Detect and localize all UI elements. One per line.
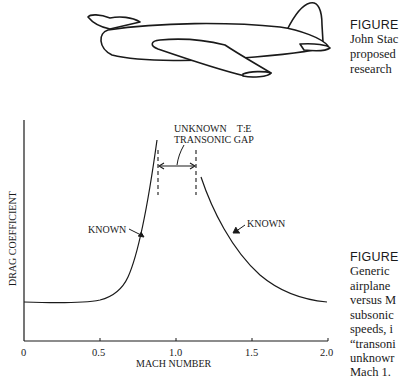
annotation-known-subsonic: KNOWN	[88, 224, 126, 235]
subsonic-curve	[24, 140, 157, 303]
annotation-unknown: UNKNOWN T:E	[174, 123, 251, 134]
annotation-known-supersonic: KNOWN	[247, 218, 285, 229]
figure-bottom-caption-line: airplane	[350, 279, 390, 294]
figure-bottom-caption-title: FIGURE	[350, 250, 398, 264]
x-tick-0.5: 0.5	[92, 347, 105, 358]
figure-bottom-caption-line: “transoni	[350, 337, 396, 352]
x-tick-1.5: 1.5	[245, 347, 258, 358]
figure-bottom-caption-line: Mach 1.	[350, 365, 391, 380]
x-tick-2.0: 2.0	[320, 347, 333, 358]
figure-bottom-caption-line: speeds, i	[350, 322, 393, 337]
figure-bottom-caption-line: subsonic	[350, 308, 394, 323]
figure-top-caption-line: proposed	[350, 47, 396, 62]
x-axis-label: MACH NUMBER	[136, 358, 211, 369]
supersonic-curve	[201, 177, 327, 302]
x-tick-0: 0	[21, 347, 26, 358]
figure-bottom-caption-line: versus M	[350, 293, 396, 308]
figure-top-caption-line: John Stac	[350, 32, 398, 47]
figure-top-caption-line: research	[350, 62, 392, 77]
annotation-transonic-gap: TRANSONIC GAP	[174, 134, 254, 145]
figure-bottom-caption-line: unknowr	[350, 351, 394, 366]
figure-bottom-caption-line: Generic	[350, 264, 390, 279]
y-axis-label: DRAG COEFFICIENT	[7, 191, 18, 286]
figure-top-caption-title: FIGURE	[350, 18, 398, 32]
x-tick-1.0: 1.0	[169, 347, 182, 358]
